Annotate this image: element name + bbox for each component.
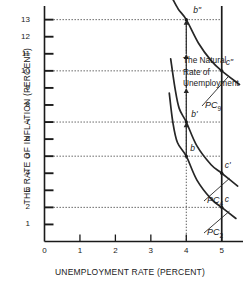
y-axis-tick-marks bbox=[44, 20, 54, 225]
curve-label-text: PC bbox=[207, 195, 220, 205]
point-label-b-double-prime: b" bbox=[193, 6, 201, 15]
curve-label-text: PC bbox=[205, 100, 218, 110]
curve-label-pc9: PC9 bbox=[205, 101, 221, 112]
curve-label-pc4: PC4 bbox=[207, 196, 223, 207]
natural-rate-annotation: The Natural Rate of Unemployment bbox=[183, 55, 249, 90]
curve-label-text: PC bbox=[207, 227, 220, 237]
x-tick-label: 2 bbox=[110, 247, 120, 255]
point-label-c: c bbox=[225, 195, 229, 204]
natural-rate-line-1: The Natural bbox=[183, 55, 249, 67]
y-axis-title: THE RATE OF INFLATION (PERCENT) bbox=[23, 41, 32, 211]
x-tick-label: 5 bbox=[217, 247, 227, 255]
x-tick-label: 3 bbox=[146, 247, 156, 255]
x-axis-title: UNEMPLOYMENT RATE (PERCENT) bbox=[30, 268, 230, 277]
y-tick-label: 12 bbox=[16, 33, 30, 41]
x-tick-label: 0 bbox=[40, 247, 50, 255]
chart-plot-area bbox=[0, 0, 251, 284]
point-label-b: b bbox=[190, 144, 195, 153]
curve-label-pc2: PC2 bbox=[207, 228, 223, 239]
y-tick-label: 13 bbox=[16, 16, 30, 24]
natural-rate-line-2: Rate of bbox=[183, 67, 249, 79]
natural-rate-line-3: Unemployment bbox=[183, 78, 249, 90]
point-label-c-prime: c' bbox=[225, 161, 231, 170]
phillips-curve-figure: 12345678910111213 012345 bb'b"cc'c" PC2P… bbox=[0, 0, 251, 284]
x-tick-label: 4 bbox=[181, 247, 191, 255]
y-tick-label: 1 bbox=[16, 220, 30, 228]
x-tick-label: 1 bbox=[75, 247, 85, 255]
curve-label-subscript: 9 bbox=[218, 105, 222, 112]
curve-label-subscript: 2 bbox=[220, 232, 224, 239]
curve-label-subscript: 4 bbox=[220, 200, 224, 207]
point-label-b-prime: b' bbox=[191, 110, 197, 119]
